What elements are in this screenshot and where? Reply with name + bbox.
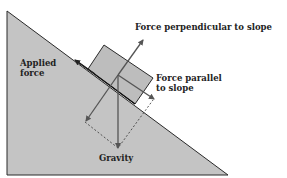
parallel-force-label: Force parallel to slope bbox=[156, 73, 222, 93]
perpendicular-force-label: Force perpendicular to slope bbox=[135, 22, 272, 32]
applied-force-label: Applied force bbox=[20, 58, 56, 78]
parallel-force-label-line1: Force parallel bbox=[156, 73, 222, 83]
parallel-force-label-line2: to slope bbox=[156, 83, 222, 93]
applied-force-label-line1: Applied bbox=[20, 58, 56, 68]
applied-force-label-line2: force bbox=[20, 68, 56, 78]
gravity-label: Gravity bbox=[99, 153, 133, 163]
